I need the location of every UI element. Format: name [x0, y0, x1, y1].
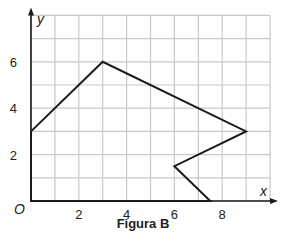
coordinate-plane-chart: 2468246 x y O [0, 0, 286, 249]
y-tick-label: 4 [10, 101, 17, 116]
x-axis-label: x [259, 183, 268, 199]
y-axis-label: y [36, 11, 45, 27]
tick-labels: 2468246 [10, 55, 226, 222]
axes [28, 7, 278, 204]
y-tick-label: 2 [10, 148, 17, 163]
origin-label: O [14, 201, 25, 217]
y-tick-label: 6 [10, 55, 17, 70]
x-axis-arrow-icon [270, 198, 278, 204]
figure-caption: Figura B [0, 216, 286, 231]
grid-lines [31, 15, 270, 201]
y-axis-arrow-icon [28, 7, 34, 15]
